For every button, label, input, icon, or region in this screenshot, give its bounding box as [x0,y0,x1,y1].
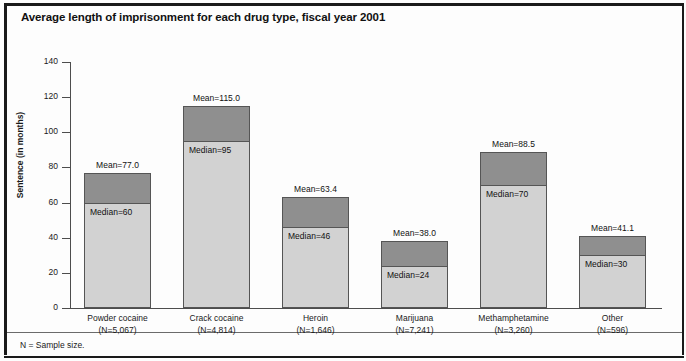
y-tick-mark [62,203,70,204]
bar-group[interactable] [84,173,151,308]
y-tick-label-wrap: 40 [10,238,58,239]
y-tick-label-wrap: 0 [10,308,58,309]
y-tick-label-wrap: 100 [10,132,58,133]
x-axis-line [70,308,662,309]
y-tick-mark [62,62,70,63]
y-tick-label: 100 [18,127,58,136]
y-tick-label-wrap: 60 [10,203,58,204]
bar-segment-mean [579,236,646,257]
y-tick-mark [62,132,70,133]
y-tick-mark [62,97,70,98]
x-category-sample-size: (N=596) [548,325,678,337]
x-category-name: Heroin [303,313,328,323]
x-category-name: Methamphetamine [478,313,548,323]
y-axis-line [70,62,71,309]
y-tick-label: 0 [18,303,58,312]
x-category-name: Marijuana [396,313,433,323]
bar-mean-label: Mean=77.0 [58,160,178,170]
bar-mean-label: Mean=88.5 [454,139,574,149]
bar-segment-mean [183,106,250,142]
bar-mean-label: Mean=41.1 [553,223,673,233]
y-tick-mark [62,238,70,239]
x-category-name: Crack cocaine [190,313,244,323]
y-tick-label: 60 [18,198,58,207]
bar-median-label: Median=60 [90,207,132,217]
plot-area: 020406080100120140 Mean=77.0Median=60Mea… [0,0,686,361]
y-tick-mark [62,308,70,309]
bar-segment-mean [480,152,547,186]
bar-group[interactable] [183,106,250,308]
x-category-name: Other [602,313,623,323]
chart-footnote: N = Sample size. [20,340,85,350]
bar-segment-median [84,203,151,308]
bar-segment-mean [381,241,448,267]
x-category-name: Powder cocaine [87,313,147,323]
y-tick-label-wrap: 120 [10,97,58,98]
y-tick-label: 120 [18,92,58,101]
chart-figure: Average length of imprisonment for each … [0,0,686,361]
y-tick-mark [62,273,70,274]
y-tick-label: 80 [18,162,58,171]
bar-group[interactable] [282,197,349,308]
y-tick-label-wrap: 20 [10,273,58,274]
bar-median-label: Median=70 [486,189,528,199]
bar-mean-label: Mean=63.4 [256,184,376,194]
bar-mean-label: Mean=38.0 [355,228,475,238]
bar-median-label: Median=46 [288,231,330,241]
y-tick-label-wrap: 140 [10,62,58,63]
bar-group[interactable] [579,236,646,308]
y-tick-label: 20 [18,268,58,277]
bar-segment-median [480,185,547,308]
y-tick-label-wrap: 80 [10,167,58,168]
bar-segment-median [183,141,250,308]
y-tick-label: 140 [18,57,58,66]
bar-median-label: Median=95 [189,145,231,155]
bar-segment-mean [84,173,151,204]
x-category-label: Other(N=596) [548,313,678,336]
bar-median-label: Median=30 [585,259,627,269]
bar-mean-label: Mean=115.0 [157,93,277,103]
bar-median-label: Median=24 [387,270,429,280]
bar-group[interactable] [480,152,547,308]
y-tick-label: 40 [18,233,58,242]
bar-segment-mean [282,197,349,229]
